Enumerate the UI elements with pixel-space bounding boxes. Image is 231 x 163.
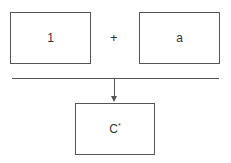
arrow-shaft [114,78,115,97]
arrow-down-icon [111,96,117,102]
input-box-1: 1 [10,12,91,64]
plus-operator: + [110,30,118,45]
output-box: C* [75,103,155,155]
output-label: C* [109,122,120,136]
input-box-2: a [139,12,220,64]
input-1-label: 1 [47,31,54,45]
input-2-label: a [176,31,183,45]
combine-line [12,78,219,79]
